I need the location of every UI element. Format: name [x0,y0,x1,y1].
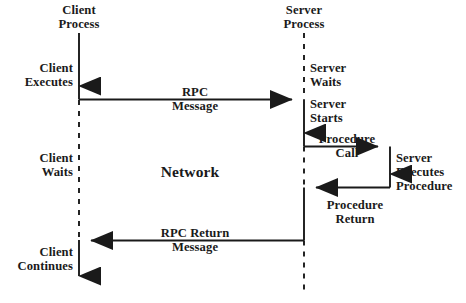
state-label-server-starts: Server Starts [310,97,346,125]
message-label-procedure-call-line1: Procedure [319,132,375,146]
lifeline-header-server: Server Process [283,3,324,31]
state-label-server-starts-line1: Server [310,97,346,111]
message-label-procedure-call-line2: Call [319,146,375,160]
message-label-rpc-message-line1: RPC [172,85,218,99]
rpc-sequence-diagram: Client Process Server Process Client Exe… [0,0,466,303]
state-label-client-executes: Client Executes [25,61,73,89]
message-label-procedure-call: Procedure Call [319,132,375,160]
state-label-client-continues: Client Continues [18,245,74,273]
state-label-client-waits-line1: Client [40,151,73,165]
message-label-procedure-return: Procedure Return [327,198,383,226]
state-label-client-waits: Client Waits [40,151,73,179]
state-label-client-waits-line2: Waits [40,165,73,179]
message-label-rpc-return-message-line2: Message [161,240,230,254]
state-label-server-waits-line1: Server [310,61,346,75]
state-label-server-executes-procedure-line1: Server [396,151,452,165]
network-label: Network [161,163,219,180]
state-label-server-executes-procedure: Server Executes Procedure [396,151,452,193]
message-label-rpc-message-line2: Message [172,99,218,113]
message-label-rpc-return-message-line1: RPC Return [161,226,230,240]
message-label-procedure-return-line2: Return [327,212,383,226]
state-label-server-executes-procedure-line3: Procedure [396,179,452,193]
lifeline-header-server-line1: Server [283,3,324,17]
message-label-procedure-return-line1: Procedure [327,198,383,212]
lifeline-header-server-line2: Process [283,17,324,31]
state-label-server-starts-line2: Starts [310,111,346,125]
message-label-rpc-return-message: RPC Return Message [161,226,230,254]
state-label-client-continues-line2: Continues [18,259,74,273]
message-label-rpc-message: RPC Message [172,85,218,113]
state-label-server-waits-line2: Waits [310,75,346,89]
procedure-return-arrow [316,174,390,188]
state-label-server-waits: Server Waits [310,61,346,89]
lifeline-header-client-line1: Client [58,3,99,17]
lifeline-header-client-line2: Process [58,17,99,31]
lifeline-header-client: Client Process [58,3,99,31]
state-label-server-executes-procedure-line2: Executes [396,165,452,179]
state-label-client-executes-line2: Executes [25,75,73,89]
state-label-client-executes-line1: Client [25,61,73,75]
state-label-client-continues-line1: Client [18,245,74,259]
